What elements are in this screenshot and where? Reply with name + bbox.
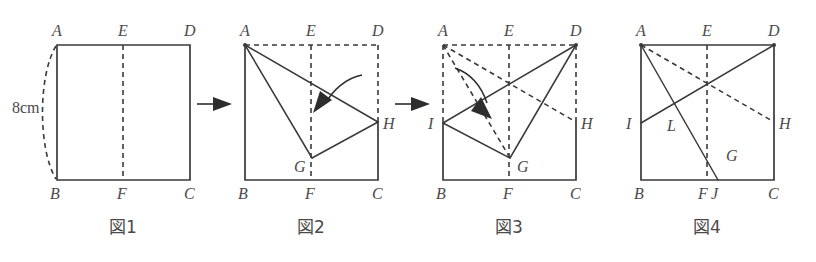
fig1-label-F: F: [116, 185, 127, 202]
fig3-label-A: A: [437, 22, 448, 39]
fig4-label-C: C: [768, 185, 779, 202]
fig3-label-B: B: [436, 185, 446, 202]
fig1-label-D: D: [183, 22, 196, 39]
geometry-diagram-canvas: 8cm A E D B F C: [0, 0, 816, 262]
caption-fig4: 図4: [693, 217, 721, 237]
figure-sheet: 8cm A E D B F C: [0, 0, 816, 262]
fig3-label-E: E: [503, 22, 514, 39]
arrow-fig1-to-fig2: [197, 97, 232, 111]
fig1-label-A: A: [51, 22, 62, 39]
fig4-label-J: J: [711, 185, 719, 202]
fig3-crease-DG: [510, 45, 576, 158]
fig1-dimension-label: 8cm: [12, 99, 40, 116]
fig3-fold-motion-arrow: [455, 68, 492, 119]
fig4-label-G: G: [726, 147, 738, 164]
caption-fig2: 図2: [297, 217, 325, 237]
fig1-label-C: C: [184, 185, 195, 202]
fig2-label-B: B: [238, 185, 248, 202]
fig3-label-F: F: [502, 185, 513, 202]
fig4-vertex-A-dot: [639, 43, 643, 47]
figure-2-group: A E D B F C G H: [238, 22, 396, 202]
fig2-label-G: G: [294, 158, 306, 175]
fig2-label-D: D: [371, 22, 384, 39]
fig2-fold-motion-arrow: [313, 75, 362, 113]
fig3-vertex-D-dot: [574, 43, 578, 47]
fig2-vertex-A-dot: [243, 43, 247, 47]
fig3-label-H: H: [580, 115, 594, 132]
fig2-label-F: F: [304, 185, 315, 202]
fig4-label-A: A: [635, 22, 646, 39]
fig3-label-C: C: [570, 185, 581, 202]
fig4-label-I: I: [625, 115, 632, 132]
fig4-label-E: E: [701, 22, 712, 39]
fig2-label-C: C: [372, 185, 383, 202]
fig4-vertex-D-dot: [772, 43, 776, 47]
fig3-label-D: D: [569, 22, 582, 39]
caption-fig1: 図1: [109, 217, 137, 237]
fig4-label-F: F: [697, 185, 708, 202]
fig3-label-G: G: [517, 158, 529, 175]
fig1-dimension-arc: [43, 46, 57, 179]
fig2-label-E: E: [305, 22, 316, 39]
fig2-label-H: H: [382, 115, 396, 132]
arrow-fig2-to-fig3: [395, 97, 430, 111]
fig3-label-I: I: [427, 115, 434, 132]
figure-3-group: A E D B F C G H I: [427, 22, 594, 202]
fig1-label-B: B: [50, 185, 60, 202]
fig4-label-H: H: [778, 115, 792, 132]
figure-1-group: 8cm A E D B F C: [12, 22, 196, 202]
figure-4-group: A E D B F J C G H I L: [625, 22, 792, 202]
fig2-label-A: A: [239, 22, 250, 39]
fig2-crease-AG: [245, 45, 312, 158]
fig4-label-B: B: [634, 185, 644, 202]
caption-fig3: 図3: [495, 217, 523, 237]
fig4-label-D: D: [767, 22, 780, 39]
fig1-label-E: E: [117, 22, 128, 39]
fig4-label-L: L: [666, 117, 676, 134]
fig2-crease-GH: [312, 122, 378, 158]
